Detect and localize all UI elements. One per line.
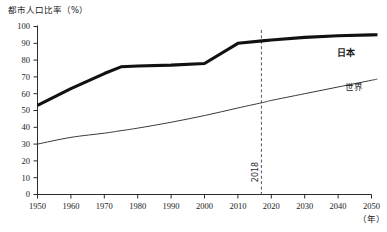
- series-line-world: [38, 79, 378, 144]
- y-tick-label: 0: [26, 189, 30, 199]
- y-tick-label: 50: [22, 105, 31, 115]
- x-tick-label: 1950: [29, 201, 46, 211]
- y-tick-label: 40: [22, 122, 31, 132]
- x-axis-unit-label: （年）: [358, 214, 385, 224]
- x-tick-label: 2000: [196, 201, 213, 211]
- y-tick-label: 100: [17, 21, 30, 31]
- x-tick-label: 1970: [96, 201, 113, 211]
- x-tick-label: 1980: [129, 201, 146, 211]
- x-tick-label: 2010: [229, 201, 246, 211]
- x-tick-labels: 1950 1960 1970 1980 1990 2000 2010 2020 …: [29, 201, 380, 211]
- x-tick-label: 1990: [163, 201, 180, 211]
- y-tick-label: 20: [22, 156, 31, 166]
- x-tick-label: 2050: [363, 201, 380, 211]
- y-tick-label: 70: [22, 72, 31, 82]
- y-axis-title: 都市人口比率（%）: [8, 5, 88, 15]
- marker-label-2018: 2018: [251, 162, 260, 182]
- series-label-japan: 日本: [337, 47, 356, 58]
- axis-lines: [38, 26, 372, 195]
- x-tick-label: 2020: [263, 201, 280, 211]
- series-label-world: 世界: [345, 82, 363, 92]
- x-tick-marks: [38, 195, 372, 199]
- y-tick-label: 90: [22, 38, 31, 48]
- x-tick-label: 1960: [62, 201, 79, 211]
- series-line-japan: [38, 35, 378, 106]
- y-tick-label: 30: [22, 139, 31, 149]
- urban-population-ratio-chart: 都市人口比率（%） 0 10 20 30 40 50 60 70: [0, 0, 387, 232]
- y-tick-marks: [34, 27, 38, 195]
- y-tick-label: 10: [22, 173, 31, 183]
- x-tick-label: 2040: [330, 201, 347, 211]
- x-tick-label: 2030: [296, 201, 313, 211]
- y-tick-label: 80: [22, 55, 31, 65]
- y-tick-labels: 0 10 20 30 40 50 60 70 80 90 100: [17, 21, 30, 199]
- y-tick-label: 60: [22, 89, 31, 99]
